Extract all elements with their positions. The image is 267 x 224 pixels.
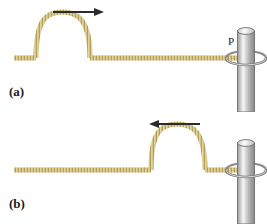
pole-a bbox=[238, 28, 255, 112]
panel-b-caption: (b) bbox=[9, 197, 25, 210]
panel-b: (b) P bbox=[0, 112, 267, 224]
pulse-hump-shade-b bbox=[151, 124, 205, 170]
wave-reflection-figure: (a) P bbox=[0, 0, 267, 224]
pole-top-cap-b bbox=[238, 140, 255, 147]
panel-a-caption: (a) bbox=[9, 85, 24, 98]
rope-b bbox=[14, 124, 244, 170]
panel-a: (a) P bbox=[0, 0, 267, 112]
pole-shaft-a bbox=[238, 31, 255, 112]
pole-b bbox=[238, 140, 255, 224]
pole-top-cap-a bbox=[238, 28, 255, 35]
panel-b-drawing bbox=[0, 112, 267, 224]
rope-a bbox=[14, 12, 244, 58]
pole-shaft-b bbox=[238, 143, 255, 224]
pulse-hump-shade-a bbox=[36, 12, 90, 58]
panel-a-drawing bbox=[0, 0, 267, 112]
point-label-p-a: P bbox=[228, 36, 234, 47]
